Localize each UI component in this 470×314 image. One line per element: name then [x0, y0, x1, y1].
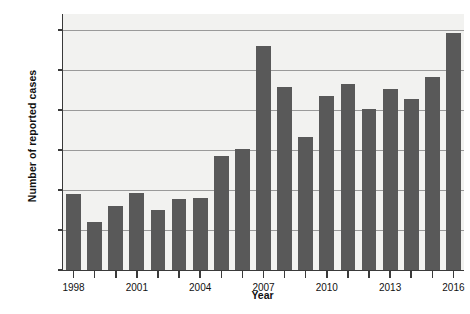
- bar: [235, 149, 250, 270]
- x-tick-mark: [284, 271, 286, 278]
- y-axis-title: Number of reported cases: [26, 41, 38, 231]
- bar: [446, 33, 461, 270]
- x-tick-mark: [73, 271, 75, 278]
- x-tick-mark: [305, 271, 307, 278]
- bar: [129, 193, 144, 270]
- x-tick-mark: [178, 271, 180, 278]
- x-tick-mark: [410, 271, 412, 278]
- bar: [319, 96, 334, 270]
- bar: [214, 156, 229, 270]
- x-tick-mark: [389, 271, 391, 278]
- bar: [172, 199, 187, 270]
- x-tick-mark: [115, 271, 117, 278]
- bar: [66, 194, 81, 270]
- bar: [362, 109, 377, 270]
- x-tick-mark: [453, 271, 455, 278]
- x-axis-title: Year: [62, 289, 463, 301]
- bar: [425, 77, 440, 270]
- x-tick-mark: [347, 271, 349, 278]
- x-tick-mark: [199, 271, 201, 278]
- bars-group: [63, 14, 464, 270]
- x-tick-mark: [94, 271, 96, 278]
- bar: [256, 46, 271, 270]
- bar: [298, 137, 313, 270]
- bar: [404, 99, 419, 270]
- bar: [193, 198, 208, 270]
- bar-chart: Number of reported cases 02,0004,0006,00…: [0, 0, 470, 314]
- x-tick-mark: [136, 271, 138, 278]
- bar: [108, 206, 123, 270]
- bar: [383, 89, 398, 270]
- bar: [87, 222, 102, 270]
- x-tick-mark: [242, 271, 244, 278]
- plot-area: 02,0004,0006,0008,00010,00012,000 199820…: [62, 14, 464, 271]
- x-tick-mark: [368, 271, 370, 278]
- x-tick-mark: [326, 271, 328, 278]
- x-tick-mark: [157, 271, 159, 278]
- bar: [341, 84, 356, 270]
- bar: [151, 210, 166, 270]
- bar: [277, 87, 292, 270]
- x-tick-mark: [432, 271, 434, 278]
- x-tick-mark: [221, 271, 223, 278]
- x-tick-mark: [263, 271, 265, 278]
